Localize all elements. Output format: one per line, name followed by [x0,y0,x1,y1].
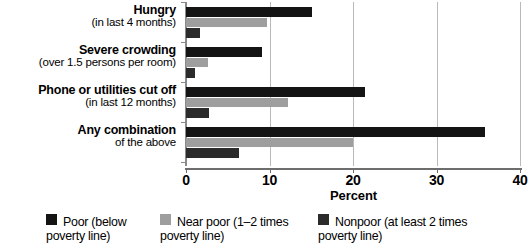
x-axis-tick-label: 0 [166,172,206,188]
legend-label-line1: Near poor (1–2 times [177,215,288,229]
category-label-sub: of the above [78,137,176,149]
y-axis-tick [181,162,185,163]
x-axis-tick-label: 40 [500,172,532,188]
legend-swatch-nonpoor [318,214,329,225]
legend-item-near-poor: Near poor (1–2 times poverty line) [160,212,288,243]
legend-label-line2: poverty line) [46,230,126,243]
category-label-main: Severe crowding [39,44,176,57]
bar [186,127,485,137]
bar-group [185,127,519,158]
x-axis-tick-label: 30 [417,172,457,188]
y-axis-tick [181,2,185,3]
x-axis-tick-label: 10 [250,172,290,188]
legend-label-line1: Poor (below [63,215,126,229]
bar [186,148,239,158]
legend-swatch-near-poor [160,214,171,225]
bar [186,18,267,28]
bar [186,138,353,148]
chart-legend: Poor (below poverty line) Near poor (1–2… [0,212,532,250]
plot-area: Hungry (in last 4 months) Severe crowdin… [0,0,532,172]
x-axis-title: Percent [185,188,522,203]
category-label-sub: (over 1.5 persons per room) [39,57,176,69]
bar [186,47,262,57]
bar-group [185,47,519,78]
category-label-severe-crowding: Severe crowding (over 1.5 persons per ro… [39,44,176,69]
bar [186,28,200,38]
category-label-main: Any combination [78,124,176,137]
legend-label-nonpoor: Nonpoor (at least 2 times poverty line) [318,215,467,243]
category-label-any-combination: Any combination of the above [78,124,176,149]
bar [186,68,195,78]
gridline [520,2,521,166]
y-axis-tick [181,82,185,83]
category-label-hungry: Hungry (in last 4 months) [91,4,176,29]
legend-item-poor: Poor (below poverty line) [46,212,126,243]
bar [186,7,312,17]
legend-item-nonpoor: Nonpoor (at least 2 times poverty line) [318,212,467,243]
bar-chart: Hungry (in last 4 months) Severe crowdin… [0,0,532,250]
category-label-phone-utilities: Phone or utilities cut off (in last 12 m… [38,84,176,109]
bar-group [185,87,519,118]
legend-label-line1: Nonpoor (at least 2 times [335,215,467,229]
bar [186,87,365,97]
bar [186,98,288,108]
plot-canvas [185,0,525,168]
y-axis-tick [181,42,185,43]
legend-label-near-poor: Near poor (1–2 times poverty line) [160,215,288,243]
category-axis-labels: Hungry (in last 4 months) Severe crowdin… [0,0,182,168]
x-axis-tick-label: 20 [333,172,373,188]
y-axis-tick [181,122,185,123]
category-label-main: Phone or utilities cut off [38,84,176,97]
category-label-sub: (in last 4 months) [91,17,176,29]
legend-label-line2: poverty line) [318,230,467,243]
category-label-main: Hungry [91,4,176,17]
bar [186,108,209,118]
legend-label-poor: Poor (below poverty line) [46,215,126,243]
legend-label-line2: poverty line) [160,230,288,243]
legend-swatch-poor [46,214,57,225]
bar-group [185,7,519,38]
category-label-sub: (in last 12 months) [38,97,176,109]
bar [186,58,208,68]
